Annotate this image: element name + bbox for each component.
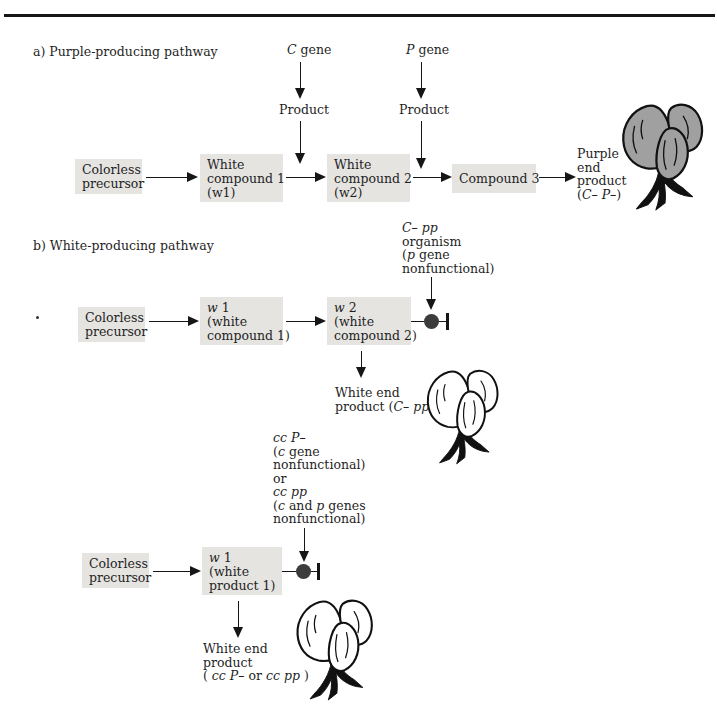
arrow-product-left-down	[300, 121, 301, 154]
arrow-w2-down	[361, 351, 362, 368]
arrow-inhibitor-mid	[304, 528, 305, 552]
box-compound-3: Compound 3	[452, 164, 536, 193]
box-colorless-precursor-b1: Colorlessprecursor	[78, 307, 145, 342]
gene-c-label: C gene	[287, 43, 331, 57]
gene-p-label: P gene	[406, 43, 449, 57]
arrow-b1-1	[149, 321, 189, 322]
box-colorless-precursor-a: Colorlessprecursor	[75, 159, 142, 194]
top-rule	[4, 14, 715, 17]
c-pp-organism-label: C– pporganism(p genenonfunctional)	[402, 221, 494, 275]
arrow-w1-down	[238, 601, 239, 628]
box-white-compound-2: Whitecompound 2(w2)	[327, 154, 410, 202]
box-w1-product: w 1(whiteproduct 1)	[202, 547, 282, 595]
arrow-a1	[146, 177, 188, 178]
product-left-label: Product	[279, 103, 329, 117]
inhibition-circle-b1	[424, 314, 439, 329]
section-b-label: b) White-producing pathway	[33, 239, 214, 253]
product-right-label: Product	[399, 103, 449, 117]
arrow-gene-p-to-product	[421, 62, 422, 89]
arrow-b1-2	[286, 321, 316, 322]
box-w2-compound: w 2(whitecompound 2)	[327, 297, 411, 345]
arrow-product-right-down	[421, 121, 422, 159]
box-colorless-precursor-b2: Colorlessprecursor	[82, 553, 149, 588]
box-white-compound-1: Whitecompound 1(w1)	[200, 154, 283, 202]
arrow-b2-1	[153, 571, 191, 572]
inhibition-bar-b2	[317, 563, 320, 580]
box-w1-compound: w 1(whitecompound 1)	[200, 297, 283, 345]
inhibition-bar-b1	[446, 313, 449, 330]
section-a-label: a) Purple-producing pathway	[33, 45, 218, 59]
arrow-a3	[413, 177, 442, 178]
arrow-inhibitor-top	[431, 277, 432, 300]
cc-inhibitor-label: cc P–(c genenonfunctional)orcc pp(c and …	[273, 431, 366, 526]
purple-flower-icon	[608, 100, 717, 214]
pathway-diagram: a) Purple-producing pathway C gene Produ…	[0, 0, 717, 720]
stray-dot	[36, 316, 39, 319]
white-flower-2-icon	[287, 596, 383, 704]
arrow-a4	[539, 177, 566, 178]
inhibition-circle-b2	[296, 564, 311, 579]
white-flower-1-icon	[418, 366, 508, 468]
arrow-a2	[286, 177, 316, 178]
arrow-gene-c-to-product	[300, 62, 301, 89]
